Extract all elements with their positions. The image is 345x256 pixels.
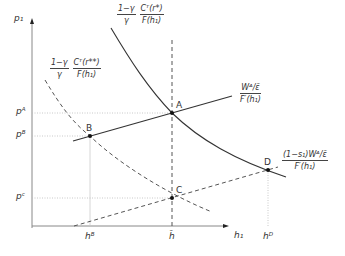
expr-num: Wᴬ/ε̄ [240,83,260,94]
label-A: A [176,101,182,110]
expr-den: F′(h₁) [294,161,315,171]
solid-line [73,96,232,141]
expr-den: F′(h₁) [240,94,261,104]
solid-curve-label: 1−γγ Cᵀ(r*)F(h₁) [117,4,164,25]
expr-den: F(h₁) [77,69,96,79]
y-tick-pB: pᴮ [16,130,26,139]
y-tick-pA: pᴬ [16,107,26,116]
expr-num: Cᵀ(r**) [73,58,101,69]
coef-den: γ [57,69,62,79]
x-tick-hB: hᴮ [85,232,95,241]
solid-line-label: Wᴬ/ε̄F′(h₁) [240,83,261,104]
expr-num: Cᵀ(r*) [140,4,164,15]
dashed-curve-label: 1−γγ Cᵀ(r**)F(h₁) [50,58,101,79]
y-axis-label: p₁ [14,14,23,23]
y-tick-pC: pᶜ [16,192,25,201]
x-axis-label: h₁ [234,231,243,240]
label-D: D [264,158,271,167]
y-axis-arrow-icon [30,18,34,24]
label-C: C [176,186,182,195]
diagram: p₁ h₁ pᴬ pᴮ pᶜ hᴮ h̄ hᴰ A B C D 1−γγ Cᵀ(… [0,0,345,256]
dashed-line-label: (1−s₁)Wᴬ/ε̄F′(h₁) [282,150,328,171]
point-C [170,196,174,200]
x-tick-hD: hᴰ [263,232,273,241]
diagram-canvas [0,0,345,256]
expr-num: (1−s₁)Wᴬ/ε̄ [282,150,328,161]
dashed-line [74,167,278,226]
coef-num: 1−γ [117,4,136,15]
x-tick-hbar: h̄ [169,232,175,241]
point-D [266,168,270,172]
point-B [88,134,92,138]
expr-den: F(h₁) [142,15,161,25]
dashed-curve [45,80,212,212]
coef-num: 1−γ [50,58,69,69]
x-axis-arrow-icon [223,224,229,228]
point-A [170,111,174,115]
label-B: B [86,124,92,133]
coef-den: γ [124,15,129,25]
